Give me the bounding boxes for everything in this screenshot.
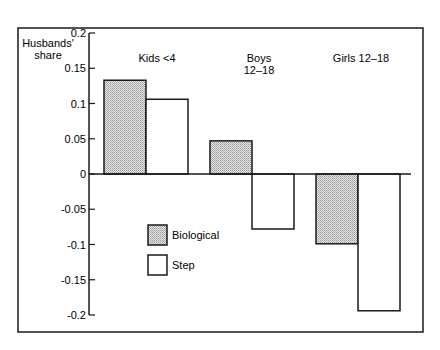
category-label: Boys	[247, 52, 272, 64]
y-tick-label: 0.1	[71, 98, 86, 110]
category-label: 12–18	[244, 64, 275, 76]
bar-biological	[210, 141, 252, 174]
y-tick-label: -0.15	[61, 274, 86, 286]
y-tick-label: 0	[80, 168, 86, 180]
bar-step	[252, 174, 294, 229]
bar-chart: 0.20.150.10.050-0.05-0.1-0.15-0.2 Husban…	[0, 0, 440, 350]
category-label: Kids <4	[139, 52, 176, 64]
bars	[104, 80, 400, 311]
legend: BiologicalStep	[148, 225, 219, 275]
category-labels: Kids <4Boys12–18Girls 12–18	[139, 52, 390, 76]
bar-biological	[316, 174, 358, 244]
bar-step	[146, 99, 188, 174]
y-tick-label: -0.2	[67, 309, 86, 321]
legend-swatch-biological	[148, 225, 167, 245]
y-tick-label: 0.05	[65, 133, 86, 145]
y-axis-title: Husbands'share	[22, 37, 74, 61]
y-tick-label: -0.05	[61, 203, 86, 215]
legend-label: Step	[172, 259, 195, 271]
legend-swatch-step	[148, 255, 167, 275]
y-axis-title-line: share	[34, 49, 62, 61]
category-label: Girls 12–18	[333, 52, 389, 64]
legend-label: Biological	[172, 229, 219, 241]
bar-biological	[104, 80, 146, 174]
y-tick-label: 0.15	[65, 62, 86, 74]
bar-step	[358, 174, 400, 311]
y-tick-label: -0.1	[67, 239, 86, 251]
y-axis-title-line: Husbands'	[22, 37, 74, 49]
